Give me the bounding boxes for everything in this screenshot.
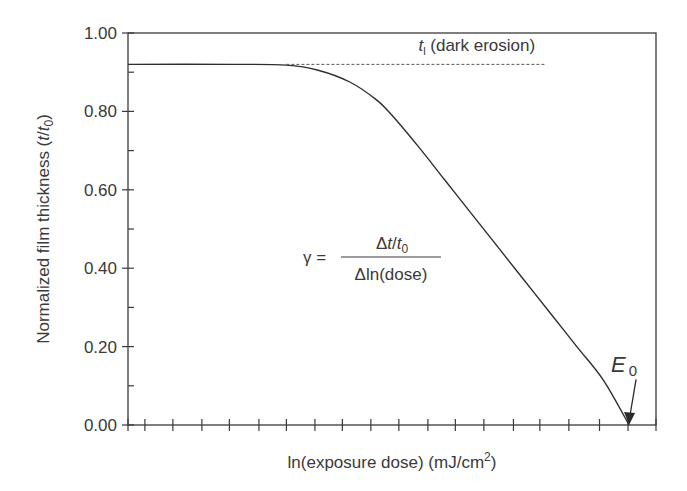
- annotation-dark-erosion-text: (dark erosion): [426, 36, 536, 55]
- y-axis-title: Normalized film thickness (t/t0): [34, 114, 56, 344]
- y-tick-label: 0.40: [84, 259, 117, 278]
- gamma-numerator: Δt/t0: [376, 234, 409, 256]
- chart: 0.000.200.400.600.801.00 Normalized film…: [0, 0, 687, 491]
- annotation-e0-sub: 0: [629, 362, 637, 379]
- y-axis-title-close: ): [34, 114, 53, 120]
- x-axis-title-main: ln(exposure dose) (mJ/cm: [288, 453, 485, 472]
- gamma-numerator-delta: Δ: [376, 234, 387, 253]
- y-tick-label: 0.80: [84, 102, 117, 121]
- e0-arrow: [630, 379, 636, 415]
- annotation-e0-symbol: E: [611, 352, 626, 377]
- y-tick-label: 0.20: [84, 338, 117, 357]
- y-axis-tick-labels: 0.000.200.400.600.801.00: [84, 24, 117, 435]
- x-axis-title: ln(exposure dose) (mJ/cm2): [288, 450, 497, 472]
- x-axis-title-close: ): [491, 453, 497, 472]
- annotation-dark-erosion: tl (dark erosion): [418, 36, 535, 57]
- plot-frame: [128, 33, 656, 425]
- y-axis-title-main: Normalized film thickness (: [34, 140, 53, 343]
- y-tick-label: 1.00: [84, 24, 117, 43]
- annotation-e0: E0: [611, 352, 637, 379]
- annotation-gamma-formula: γ = Δt/t0 Δln(dose): [303, 234, 441, 284]
- y-tick-label: 0.00: [84, 416, 117, 435]
- y-tick-label: 0.60: [84, 181, 117, 200]
- gamma-denominator: Δln(dose): [355, 265, 428, 284]
- gamma-numerator-sub: 0: [401, 242, 408, 256]
- gamma-lhs: γ =: [303, 248, 326, 267]
